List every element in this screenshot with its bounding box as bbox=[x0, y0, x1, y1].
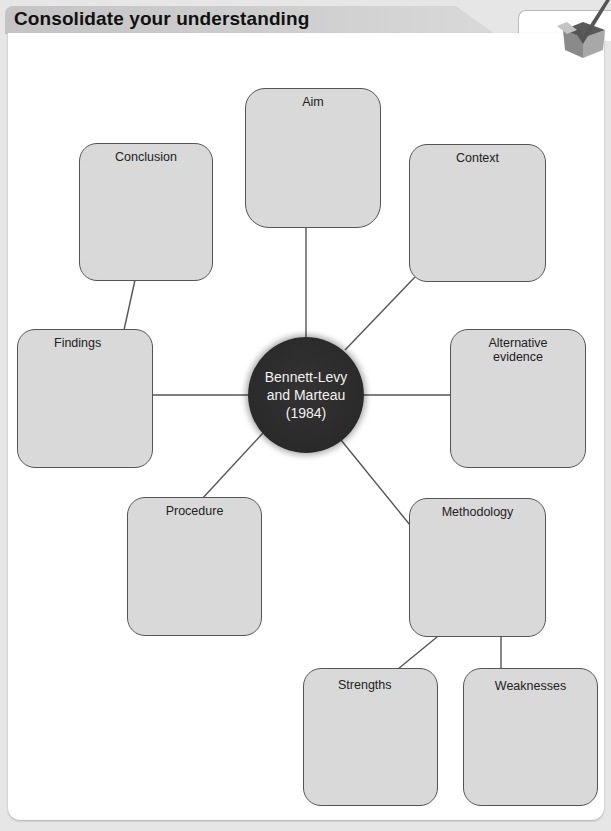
central-topic-line-2: and Marteau bbox=[265, 386, 348, 404]
node-procedure: Procedure bbox=[127, 497, 262, 636]
node-weaknesses: Weaknesses bbox=[463, 668, 598, 806]
node-alternative-evidence: Alternative evidence bbox=[450, 329, 586, 468]
node-methodology: Methodology bbox=[409, 498, 546, 637]
node-findings-label: Findings bbox=[54, 336, 101, 350]
node-aim-label: Aim bbox=[302, 95, 324, 109]
node-alternative-evidence-label-2: evidence bbox=[451, 350, 585, 364]
node-context-label: Context bbox=[456, 151, 499, 165]
node-context: Context bbox=[409, 144, 546, 282]
node-methodology-label: Methodology bbox=[442, 505, 514, 519]
node-strengths-label: Strengths bbox=[338, 678, 392, 692]
node-aim: Aim bbox=[245, 88, 381, 228]
node-conclusion: Conclusion bbox=[79, 143, 213, 281]
node-alternative-evidence-label-1: Alternative bbox=[451, 336, 585, 350]
node-weaknesses-label: Weaknesses bbox=[495, 679, 566, 693]
node-procedure-label: Procedure bbox=[166, 504, 224, 518]
node-conclusion-label: Conclusion bbox=[115, 150, 177, 164]
central-topic-line-1: Bennett-Levy bbox=[265, 368, 348, 386]
node-strengths: Strengths bbox=[303, 668, 438, 806]
central-topic: Bennett-Levy and Marteau (1984) bbox=[248, 337, 364, 453]
node-findings: Findings bbox=[17, 329, 153, 468]
central-topic-line-3: (1984) bbox=[265, 404, 348, 422]
